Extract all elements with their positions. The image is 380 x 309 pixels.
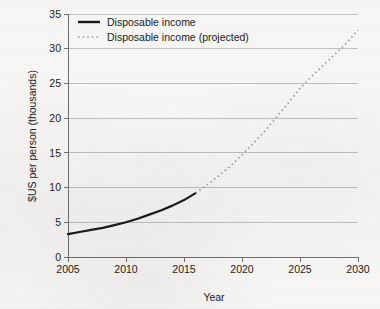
x-axis-tick-label: 2015 [172, 263, 196, 275]
y-axis-tick-label: 25 [49, 77, 61, 89]
gridlines [68, 14, 358, 257]
x-axis: 200520102015202020252030 [56, 257, 370, 275]
series-line-projected [196, 30, 358, 193]
y-axis-tick-label: 35 [49, 8, 61, 20]
x-axis-tick-label: 2025 [288, 263, 312, 275]
y-axis: 05101520253035 [49, 8, 68, 263]
y-axis-tick-label: 20 [49, 112, 61, 124]
x-axis-tick-label: 2005 [56, 263, 80, 275]
y-axis-tick-label: 15 [49, 147, 61, 159]
x-axis-tick-label: 2010 [114, 263, 138, 275]
line-chart: 05101520253035 200520102015202020252030 … [0, 0, 380, 309]
y-axis-tick-label: 30 [49, 42, 61, 54]
y-axis-title: $US per person (thousands) [26, 70, 38, 202]
x-axis-tick-label: 2030 [346, 263, 370, 275]
legend-label: Disposable income [107, 16, 196, 28]
x-axis-tick-label: 2020 [230, 263, 254, 275]
data-series [68, 30, 358, 234]
series-line-actual [68, 193, 196, 234]
legend-label: Disposable income (projected) [107, 31, 249, 43]
chart-figure: 05101520253035 200520102015202020252030 … [0, 0, 380, 309]
y-axis-tick-label: 10 [49, 181, 61, 193]
y-axis-tick-label: 5 [55, 216, 61, 228]
x-axis-title: Year [203, 291, 225, 303]
y-axis-tick-label: 0 [55, 251, 61, 263]
chart-legend: Disposable incomeDisposable income (proj… [78, 16, 249, 43]
